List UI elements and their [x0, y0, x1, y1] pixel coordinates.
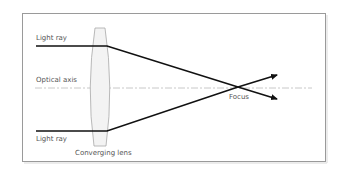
top-ray-label: Light ray [36, 34, 67, 42]
optical-axis-label: Optical axis [36, 76, 77, 84]
lens-diagram: Light ray Optical axis Light ray Converg… [0, 0, 340, 184]
bottom-ray-label: Light ray [36, 135, 67, 143]
diagram-stage: Light ray Optical axis Light ray Converg… [0, 0, 340, 184]
focus-label: Focus [229, 93, 249, 101]
lens-label: Converging lens [75, 149, 132, 157]
